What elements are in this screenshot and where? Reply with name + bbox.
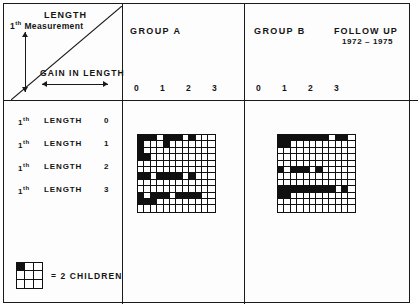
legend-key-cell bbox=[17, 263, 25, 271]
legend-key-cell bbox=[34, 271, 42, 279]
row-label-number: 0 bbox=[104, 116, 109, 125]
row-label-number: 2 bbox=[104, 162, 109, 171]
x-tick-1: 1 bbox=[282, 83, 287, 93]
row-label-word: LENGTH bbox=[44, 185, 82, 194]
figure-frame: LENGTH 1th Measurement GAIN IN LENGTH GR… bbox=[3, 3, 410, 303]
x-tick-3: 3 bbox=[334, 83, 339, 93]
panel-divider-left bbox=[122, 4, 123, 304]
matrix-cell bbox=[348, 205, 354, 211]
x-tick-3: 3 bbox=[212, 83, 217, 93]
axis-legend-triangle: LENGTH 1th Measurement GAIN IN LENGTH bbox=[4, 4, 122, 104]
legend-key-cell bbox=[25, 280, 33, 288]
row-label-superscript: th bbox=[23, 116, 30, 122]
legend-length-label: LENGTH bbox=[44, 10, 87, 20]
header-follow-up: FOLLOW UP bbox=[334, 26, 398, 36]
measurement-word: Measurement bbox=[24, 21, 83, 31]
row-label-superscript: th bbox=[23, 185, 30, 191]
x-tick-0: 0 bbox=[256, 83, 261, 93]
legend-key-cell bbox=[34, 263, 42, 271]
row-label-number: 3 bbox=[104, 185, 109, 194]
matrix-group-b bbox=[277, 134, 356, 213]
row-label-1: 1thLENGTH1 bbox=[18, 139, 30, 150]
x-tick-1: 1 bbox=[160, 83, 165, 93]
row-label-word: LENGTH bbox=[44, 116, 82, 125]
x-tick-2: 2 bbox=[308, 83, 313, 93]
legend-gain-label: GAIN IN LENGTH bbox=[40, 68, 125, 78]
header-follow-up-years: 1972 – 1975 bbox=[342, 37, 393, 46]
x-axis-ticks-group-b: 0123 bbox=[256, 83, 356, 95]
row-label-superscript: th bbox=[23, 139, 30, 145]
row-label-3: 1thLENGTH3 bbox=[18, 185, 30, 196]
horizontal-double-arrow-icon bbox=[42, 84, 108, 85]
row-label-2: 1thLENGTH2 bbox=[18, 162, 30, 173]
x-tick-2: 2 bbox=[186, 83, 191, 93]
row-label-number: 1 bbox=[104, 139, 109, 148]
legend-key-grid bbox=[16, 262, 43, 289]
header-group-a: GROUP A bbox=[130, 26, 181, 36]
legend-key-cell bbox=[25, 271, 33, 279]
x-tick-0: 0 bbox=[134, 83, 139, 93]
header-group-b: GROUP B bbox=[254, 26, 306, 36]
legend-key-cell bbox=[25, 263, 33, 271]
legend-key-cell bbox=[17, 271, 25, 279]
legend-key-cell bbox=[17, 280, 25, 288]
matrix-group-a bbox=[137, 134, 216, 213]
legend-measurement-label: 1th Measurement bbox=[10, 20, 84, 31]
vertical-double-arrow-icon bbox=[25, 32, 26, 92]
row-label-0: 1thLENGTH0 bbox=[18, 116, 30, 127]
row-label-word: LENGTH bbox=[44, 162, 82, 171]
row-label-word: LENGTH bbox=[44, 139, 82, 148]
matrix-cell bbox=[208, 205, 214, 211]
measurement-superscript: th bbox=[15, 20, 21, 26]
panel-divider-right bbox=[244, 4, 245, 304]
legend-key-cell bbox=[34, 280, 42, 288]
legend-key-label: = 2 CHILDREN bbox=[51, 271, 123, 281]
row-label-superscript: th bbox=[23, 162, 30, 168]
baseline-axis bbox=[4, 100, 418, 101]
x-axis-ticks-group-a: 0123 bbox=[134, 83, 234, 95]
